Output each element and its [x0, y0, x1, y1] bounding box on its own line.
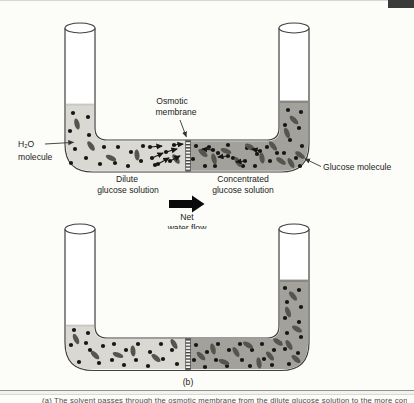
- water-molecule-dot: [112, 342, 116, 346]
- water-molecule-dot: [285, 300, 289, 304]
- water-molecule-dot: [258, 149, 262, 153]
- water-molecule-dot: [227, 348, 231, 352]
- water-molecule-dot: [203, 164, 207, 168]
- water-molecule-dot: [148, 145, 152, 149]
- dilute-solution-a-surface: [66, 104, 94, 106]
- water-molecule-dot: [294, 156, 298, 160]
- h2o-molecule-label-line2: molecule: [18, 152, 53, 162]
- water-molecule-dot: [241, 164, 245, 168]
- osmotic-membrane-b: [186, 339, 191, 370]
- water-molecule-dot: [248, 364, 252, 368]
- water-molecule-dot: [156, 162, 160, 166]
- osmotic-membrane-label-line1: Osmotic: [156, 96, 188, 106]
- concentrated-solution-label-line1: Concentrated: [217, 174, 269, 184]
- net-water-flow-label-line1: Net: [180, 212, 194, 222]
- water-molecule-dot: [150, 156, 154, 160]
- water-molecule-dot: [159, 342, 163, 346]
- water-molecule-dot: [86, 115, 90, 119]
- water-molecule-dot: [260, 342, 264, 346]
- water-molecule-dot: [71, 111, 75, 115]
- water-molecule-dot: [285, 331, 289, 335]
- water-molecule-dot: [87, 133, 91, 137]
- dilute-solution-label-line2: glucose solution: [97, 185, 159, 195]
- water-molecule-dot: [299, 305, 303, 309]
- glucose-molecule-leader-line: [305, 159, 321, 167]
- water-molecule-dot: [283, 347, 287, 351]
- water-molecule-dot: [191, 157, 195, 161]
- water-molecule-dot: [297, 126, 301, 130]
- water-molecule-dot: [213, 164, 217, 168]
- water-molecule-dot: [194, 343, 198, 347]
- water-molecule-dot: [203, 365, 207, 369]
- figure-caption: (a) The solvent passes through the osmot…: [42, 396, 407, 403]
- water-molecule-dot: [194, 144, 198, 148]
- osmosis-figure: Osmotic membrane H₂O molecule Dilute glu…: [0, 0, 414, 392]
- water-molecule-dot: [122, 363, 126, 367]
- water-molecule-dot: [297, 320, 301, 324]
- water-molecule-dot: [265, 145, 269, 149]
- osmotic-membrane-a: [186, 141, 191, 172]
- water-molecule-dot: [102, 145, 106, 149]
- water-molecule-dot: [240, 358, 244, 362]
- tube-mouth-b-right: [279, 224, 309, 234]
- water-molecule-dot: [113, 161, 117, 165]
- water-molecule-dot: [287, 362, 291, 366]
- water-molecule-dot: [116, 145, 120, 149]
- u-tube-b-inner-wall: [95, 229, 279, 338]
- water-molecule-dot: [283, 316, 287, 320]
- water-molecule-dot: [214, 358, 218, 362]
- water-molecule-dot: [216, 151, 220, 155]
- water-molecule-dot: [255, 152, 259, 156]
- water-molecule-dot: [129, 150, 133, 154]
- concentrated-solution-a-surface: [280, 101, 308, 103]
- water-molecule-dot: [299, 335, 303, 339]
- dilute-solution-label-line1: Dilute: [116, 174, 138, 184]
- u-tube-a-inner-wall: [95, 28, 279, 140]
- water-molecule-dot: [283, 123, 287, 127]
- water-molecule-dot: [299, 110, 303, 114]
- water-molecule-dot: [124, 348, 128, 352]
- water-molecule-dot: [226, 143, 230, 147]
- water-molecule-dot: [69, 343, 73, 347]
- water-molecule-dot: [72, 328, 76, 332]
- water-molecule-dot: [170, 348, 174, 352]
- water-molecule-dot: [86, 331, 90, 335]
- water-molecule-dot: [268, 159, 272, 163]
- water-molecule-dot: [216, 342, 220, 346]
- water-molecule-dot: [136, 342, 140, 346]
- net-water-flow-arrow: [169, 196, 205, 213]
- water-molecule-dot: [205, 350, 209, 354]
- concentrated-solution-b-surface: [280, 280, 308, 282]
- water-molecule-dot: [275, 151, 279, 155]
- tube-mouth-a-right: [279, 23, 309, 33]
- water-molecule-dot: [110, 358, 114, 362]
- caption-divider-rule: [0, 390, 414, 395]
- water-molecule-dot: [286, 108, 290, 112]
- water-molecule-dot: [243, 159, 247, 163]
- panel-b-label: (b): [183, 377, 194, 387]
- tube-mouth-b-left: [65, 224, 95, 234]
- water-molecule-dot: [272, 348, 276, 352]
- water-molecule-dot: [134, 358, 138, 362]
- water-molecule-dot: [84, 156, 88, 160]
- water-molecule-dot: [139, 159, 143, 163]
- water-molecule-dot: [262, 357, 266, 361]
- water-molecule-dot: [175, 362, 179, 366]
- water-molecule-dot: [207, 145, 211, 149]
- water-molecule-dot: [192, 358, 196, 362]
- water-molecule-dot: [282, 151, 286, 155]
- water-molecule-dot: [73, 147, 77, 151]
- water-molecule-dot: [148, 350, 152, 354]
- water-molecule-dot: [161, 357, 165, 361]
- water-molecule-dot: [146, 364, 150, 368]
- water-molecule-dot: [172, 143, 176, 147]
- water-molecule-dot: [297, 288, 301, 292]
- concentrated-solution-label-line2: glucose solution: [212, 185, 274, 195]
- water-molecule-dot: [168, 159, 172, 163]
- water-molecule-dot: [283, 286, 287, 290]
- osmotic-membrane-label-line2: membrane: [155, 107, 196, 117]
- water-molecule-dot: [98, 162, 102, 166]
- water-molecule-dot: [69, 161, 73, 165]
- water-molecule-dot: [288, 138, 292, 142]
- water-molecule-dot: [126, 164, 130, 168]
